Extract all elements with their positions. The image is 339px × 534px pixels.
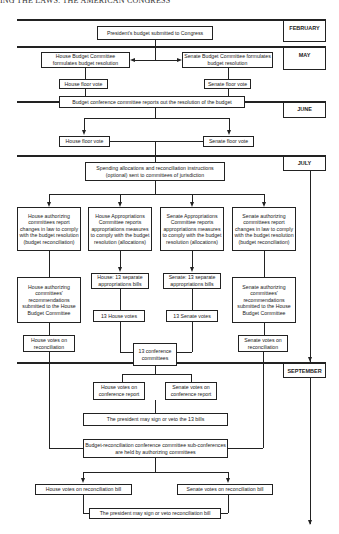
- connector: [85, 68, 86, 79]
- connector: [192, 322, 193, 352]
- house-floor-vote-2-box: House floor vote: [59, 136, 110, 147]
- timeline-arrow-september-icon: [308, 357, 312, 362]
- divider-february: [17, 19, 326, 21]
- connector: [263, 352, 264, 448]
- house-appropriations-report-box: House Appropriations Committee reports a…: [88, 207, 152, 251]
- connector: [228, 89, 229, 96]
- connector: [192, 251, 193, 268]
- house-authorizing-recommendations-box: House authorizing committees' recommenda…: [17, 277, 81, 323]
- connector: [264, 251, 265, 277]
- house-13-votes-box: 13 House votes: [93, 310, 145, 322]
- connector: [49, 251, 50, 277]
- connector: [84, 118, 230, 119]
- connector: [110, 141, 203, 142]
- connector: [155, 458, 156, 472]
- month-july: JULY: [283, 155, 326, 171]
- arrow-down-icon: [47, 202, 51, 207]
- connector: [49, 323, 50, 335]
- senate-floor-vote-2-box: Senate floor vote: [203, 136, 254, 147]
- arrow-down-icon: [262, 202, 266, 207]
- senate-budget-committee-box: Senate Budget Committee formulates budge…: [182, 52, 273, 68]
- running-header: ING THE LAWS: THE AMERICAN CONGRESS: [0, 0, 230, 5]
- connector: [191, 374, 192, 382]
- month-february: FEBRUARY: [283, 19, 326, 42]
- arrow-down-icon: [190, 267, 194, 272]
- budget-conference-box: Budget conference committee reports out …: [59, 96, 245, 108]
- connector: [85, 89, 86, 96]
- arrow-down-icon: [81, 478, 85, 483]
- reconciliation-conference-box: Budget-reconciliation conference committ…: [83, 439, 228, 458]
- house-13-bills-box: House: 13 separate appropriations bills: [91, 273, 149, 289]
- connector: [264, 194, 265, 202]
- connector: [120, 289, 121, 310]
- arrow-left-icon: [130, 58, 135, 62]
- connector: [155, 400, 156, 413]
- connector: [49, 352, 50, 448]
- senate-votes-reconciliation-box: Senate votes on reconciliation: [238, 335, 288, 352]
- arrow-down-icon: [118, 267, 122, 272]
- house-budget-committee-box: House Budget Committee formulates budget…: [41, 52, 130, 68]
- connector: [83, 495, 84, 513]
- connector: [122, 374, 123, 382]
- arrow-down-icon: [227, 130, 231, 135]
- connector: [221, 513, 228, 514]
- arrow-down-icon: [118, 202, 122, 207]
- house-votes-reconciliation-bill-box: House votes on reconciliation bill: [35, 484, 132, 495]
- connector: [177, 352, 192, 353]
- connector: [264, 323, 265, 335]
- connector: [192, 194, 193, 202]
- connector: [155, 366, 156, 374]
- connector: [83, 472, 228, 473]
- timeline-line: [310, 171, 311, 524]
- senate-floor-vote-1-box: Senate floor vote: [204, 79, 251, 89]
- connector: [155, 40, 156, 61]
- connector: [155, 181, 156, 194]
- senate-authorizing-report-box: Senate authorizing committees report cha…: [232, 207, 296, 251]
- connector: [192, 289, 193, 310]
- house-authorizing-report-box: House authorizing committees report chan…: [17, 207, 81, 251]
- arrow-right-icon: [177, 58, 182, 62]
- arrow-down-icon: [82, 130, 86, 135]
- connector: [155, 108, 156, 118]
- arrow-down-icon: [190, 202, 194, 207]
- month-may: MAY: [283, 46, 326, 70]
- connector: [49, 194, 50, 202]
- senate-votes-reconciliation-bill-box: Senate votes on reconciliation bill: [177, 484, 273, 495]
- senate-votes-conference-report-box: Senate votes on conference report: [165, 382, 217, 400]
- senate-authorizing-recommendations-box: Senate authorizing committees' recommend…: [232, 277, 296, 323]
- connector: [120, 251, 121, 268]
- connector: [49, 194, 265, 195]
- senate-appropriations-report-box: Senate Appropriations Committee reports …: [160, 207, 224, 251]
- divider-july: [17, 155, 326, 157]
- connector: [120, 194, 121, 202]
- president-budget-box: President's budget submitted to Congress: [97, 26, 213, 40]
- house-votes-reconciliation-box: House votes on reconciliation: [23, 335, 75, 352]
- divider-may: [17, 46, 326, 48]
- month-september: SEPTEMBER: [283, 362, 326, 378]
- conference-committees-13-box: 13 conference committees: [133, 343, 177, 366]
- spending-allocations-box: Spending allocations and reconciliation …: [85, 162, 225, 181]
- connector: [155, 141, 156, 162]
- connector: [228, 68, 229, 79]
- arrow-down-icon: [226, 478, 230, 483]
- senate-13-votes-box: 13 Senate votes: [166, 310, 218, 322]
- timeline-arrow-icon: [308, 520, 312, 525]
- connector: [120, 352, 133, 353]
- connector: [49, 448, 83, 449]
- connector: [228, 448, 263, 449]
- senate-13-bills-box: Senate: 13 separate appropriations bills: [163, 273, 221, 289]
- connector: [122, 374, 192, 375]
- president-13-bills-box: The president may sign or veto the 13 bi…: [83, 413, 228, 426]
- connector: [134, 60, 178, 61]
- house-floor-vote-1-box: House floor vote: [59, 79, 108, 89]
- president-reconciliation-bill-box: The president may sign or veto reconcili…: [89, 508, 221, 519]
- month-june: JUNE: [283, 101, 326, 118]
- connector: [228, 495, 229, 513]
- house-votes-conference-report-box: House votes on conference report: [93, 382, 145, 400]
- connector: [120, 322, 121, 352]
